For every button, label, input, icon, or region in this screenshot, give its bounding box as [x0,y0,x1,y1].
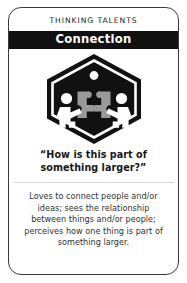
card-quote-line-1: “How is this part of [21,148,166,161]
card-title: Connection [56,34,132,46]
card-title-band: Connection [9,31,178,49]
connection-badge-hexagon-icon [42,51,146,147]
card-quote-line-2: something larger?” [21,161,166,174]
card-eyebrow-label: THINKING TALENTS [49,16,137,25]
badge-area [9,49,178,148]
badge-accent-dot [89,71,98,80]
thinking-talents-card[interactable]: THINKING TALENTS Connection [8,7,179,275]
card-description: Loves to connect people and/or ideas; se… [9,183,178,274]
card-quote: “How is this part of something larger?” [9,148,178,174]
card-eyebrow: THINKING TALENTS [9,8,178,31]
card-container: THINKING TALENTS Connection [0,0,187,283]
